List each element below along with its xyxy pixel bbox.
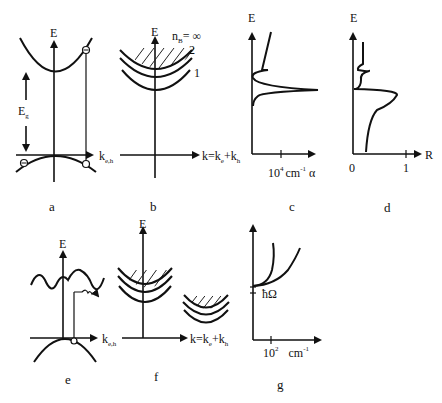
axis-label-E: E	[350, 11, 357, 25]
hole-icon	[83, 161, 90, 168]
polariton-branch-steep	[253, 243, 274, 286]
caption-c: c	[289, 199, 295, 214]
axis-label-R: R	[425, 148, 433, 162]
exciton-level-1-curve	[122, 70, 190, 90]
caption-b: b	[150, 199, 157, 214]
axis-label-E: E	[50, 26, 57, 40]
continuum-edge-curve	[118, 268, 172, 284]
phonon-energy-label: ħΩ	[262, 287, 277, 301]
exciton-level-1-curve	[119, 286, 171, 302]
panel-a: E ke,h Eg a	[16, 26, 114, 214]
axis-label-k: ke,h	[99, 149, 114, 165]
axis-label-E: E	[151, 25, 158, 39]
axis-label-E: E	[139, 217, 146, 231]
axis-label-E: E	[59, 237, 66, 251]
gap-label: Eg	[18, 104, 29, 120]
caption-a: a	[49, 199, 55, 214]
absorption-curve	[253, 32, 318, 106]
axis-label-k-sum: k=ke+kh	[190, 332, 229, 348]
conduction-band-curve	[20, 38, 92, 72]
caption-e: e	[65, 372, 71, 387]
axis-label-k: ke,h	[102, 332, 117, 348]
exciton-dispersion-wavy	[31, 270, 104, 289]
panel-c: E 104cm-1α c	[248, 11, 318, 214]
axis-label-E: E	[248, 11, 255, 25]
alpha-tick-label: 104cm-1α	[268, 165, 316, 180]
series-label: nB= ∞	[172, 29, 201, 45]
caption-g: g	[277, 377, 284, 392]
shifted-continuum-curve	[184, 295, 228, 308]
level-1-label: 1	[194, 66, 200, 80]
continuum-hatching-shifted	[182, 292, 232, 315]
valence-band-curve	[34, 339, 96, 362]
caption-d: d	[384, 200, 391, 215]
relaxation-arrow	[74, 290, 98, 296]
panel-f: E k=ke+kh f	[115, 217, 232, 384]
level-2-label: 2	[189, 43, 195, 57]
reflectance-curve	[354, 42, 397, 152]
panel-g: ħΩ 102cm-1 g	[250, 226, 320, 392]
tick-label-0: 0	[349, 161, 355, 175]
hole-icon	[71, 338, 77, 344]
axis-label-k-sum: k=ke+kh	[202, 149, 241, 165]
exciton-diagram: E ke,h Eg a E k=ke+kh nB= ∞	[0, 0, 442, 403]
panel-b: E k=ke+kh nB= ∞ 2 1 b	[120, 25, 241, 214]
polariton-branch-shallow	[253, 248, 300, 286]
caption-f: f	[154, 369, 159, 384]
wavenumber-tick-label: 102cm-1	[263, 345, 310, 360]
tick-label-1: 1	[403, 161, 409, 175]
panel-e: E ke,h e	[30, 237, 117, 387]
shifted-level-1-curve	[184, 310, 228, 323]
panel-d: E R 0 1 d	[349, 11, 433, 215]
continuum-edge-curve	[120, 50, 192, 69]
